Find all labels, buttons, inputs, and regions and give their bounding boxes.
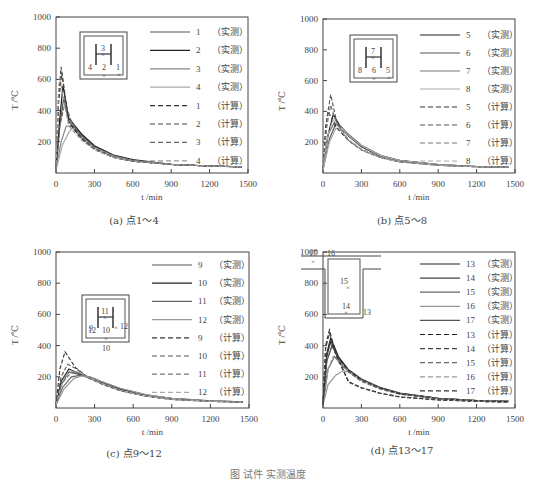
- legend-label: 7: [466, 66, 471, 76]
- svg-text:×: ×: [114, 324, 118, 332]
- legend-kind: （实测）: [482, 83, 518, 94]
- legend-label: 10: [198, 351, 208, 361]
- legend-label: 6: [466, 120, 471, 130]
- chart-svg: 0300600900120015002004006008001000t /min…: [268, 240, 536, 460]
- legend-label: 11: [198, 296, 207, 306]
- legend-label: 2: [196, 45, 201, 55]
- y-tick-label: 400: [305, 341, 319, 351]
- svg-text:×: ×: [101, 51, 105, 59]
- series-line: [323, 371, 509, 405]
- chart-panel-b: 0300600900120015002004006008001000t /min…: [268, 0, 536, 235]
- y-tick-label: 600: [38, 309, 52, 319]
- svg-text:×: ×: [311, 258, 315, 266]
- legend-kind: （实测）: [482, 47, 518, 58]
- legend-label: 7: [466, 138, 471, 148]
- legend-label: 13: [466, 259, 476, 269]
- chart-caption: (c) 点9～12: [0, 445, 268, 460]
- legend-label: 13: [466, 330, 476, 340]
- chart-caption: (a) 点1～4: [0, 212, 268, 227]
- legend-kind: （实测）: [482, 286, 518, 297]
- x-tick-label: 300: [88, 179, 102, 189]
- figure-caption: 图 试件 实测温度: [0, 466, 536, 481]
- legend-label: 4: [196, 82, 201, 92]
- legend-kind: （计算）: [214, 350, 250, 361]
- legend-label: 12: [198, 387, 207, 397]
- y-tick-label: 800: [38, 43, 52, 53]
- chart-caption: (d) 点13～17: [268, 442, 536, 457]
- y-tick-label: 200: [38, 372, 52, 382]
- x-tick-label: 1500: [506, 414, 525, 424]
- x-tick-label: 300: [355, 179, 369, 189]
- svg-text:×: ×: [387, 74, 391, 82]
- legend-label: 5: [466, 30, 471, 40]
- cross-section-inset: 3×42×1×: [80, 32, 127, 80]
- legend-label: 14: [466, 344, 476, 354]
- legend-label: 6: [466, 48, 471, 58]
- y-tick-label: 400: [38, 106, 52, 116]
- legend-label: 3: [196, 137, 201, 147]
- legend-kind: （实测）: [482, 29, 518, 40]
- legend-kind: （计算）: [482, 137, 518, 148]
- x-tick-label: 900: [431, 414, 445, 424]
- x-tick-label: 900: [431, 179, 445, 189]
- y-tick-label: 800: [305, 278, 319, 288]
- legend-label: 5: [466, 102, 471, 112]
- y-axis-label: T /℃: [10, 325, 20, 345]
- legend-kind: （计算）: [482, 329, 518, 340]
- legend-label: 16: [466, 372, 476, 382]
- y-tick-label: 800: [305, 45, 319, 55]
- x-tick-label: 1500: [239, 179, 258, 189]
- y-axis-label: T /℃: [277, 325, 287, 345]
- legend-label: 9: [198, 333, 203, 343]
- x-tick-label: 600: [393, 414, 407, 424]
- x-tick-label: 900: [165, 414, 179, 424]
- x-tick-label: 0: [54, 179, 59, 189]
- x-tick-label: 0: [54, 414, 59, 424]
- x-tick-label: 600: [126, 179, 140, 189]
- x-tick-label: 1500: [240, 414, 259, 424]
- x-axis-label: t /min: [408, 427, 430, 437]
- y-tick-label: 1000: [300, 14, 319, 24]
- chart-svg: 0300600900120015002004006008001000t /min…: [268, 0, 536, 225]
- legend-kind: （实测）: [482, 314, 518, 325]
- legend-kind: （实测）: [214, 277, 250, 288]
- svg-text:×: ×: [103, 314, 107, 322]
- y-tick-label: 600: [305, 309, 319, 319]
- x-tick-label: 300: [88, 414, 102, 424]
- legend-label: 9: [198, 260, 203, 270]
- svg-text:×: ×: [117, 71, 121, 79]
- legend-kind: （计算）: [482, 343, 518, 354]
- legend-kind: （实测）: [214, 295, 250, 306]
- legend-label: 4: [196, 156, 201, 166]
- cross-section-inset: 11×1210×10912×: [82, 295, 129, 353]
- legend-kind: （计算）: [482, 385, 518, 396]
- legend-label: 16: [466, 301, 476, 311]
- plot-area: [56, 17, 248, 173]
- legend-kind: （实测）: [212, 44, 248, 55]
- svg-text:10: 10: [102, 344, 110, 353]
- x-tick-label: 1200: [201, 179, 220, 189]
- chart-panel-d: 0300600900120015002004006008001000t /min…: [268, 240, 536, 465]
- legend-kind: （实测）: [482, 65, 518, 76]
- legend-kind: （计算）: [482, 155, 518, 166]
- y-tick-label: 400: [38, 341, 52, 351]
- legend-kind: （计算）: [212, 100, 248, 111]
- legend-kind: （实测）: [212, 63, 248, 74]
- svg-text:×: ×: [372, 75, 376, 83]
- x-tick-label: 0: [321, 414, 326, 424]
- legend-label: 15: [466, 358, 476, 368]
- legend-kind: （实测）: [482, 272, 518, 283]
- legend-kind: （计算）: [482, 101, 518, 112]
- legend-label: 17: [466, 386, 476, 396]
- chart-svg: 0300600900120015002004006008001000t /min…: [0, 0, 268, 225]
- x-axis-label: t /min: [141, 192, 163, 202]
- legend-label: 3: [196, 64, 201, 74]
- series-line: [323, 333, 509, 405]
- svg-text:×: ×: [344, 309, 348, 317]
- legend-kind: （实测）: [214, 314, 250, 325]
- x-tick-label: 900: [164, 179, 178, 189]
- legend-kind: （计算）: [212, 136, 248, 147]
- y-tick-label: 400: [305, 106, 319, 116]
- svg-text:4: 4: [88, 63, 92, 72]
- svg-text:×: ×: [346, 284, 350, 292]
